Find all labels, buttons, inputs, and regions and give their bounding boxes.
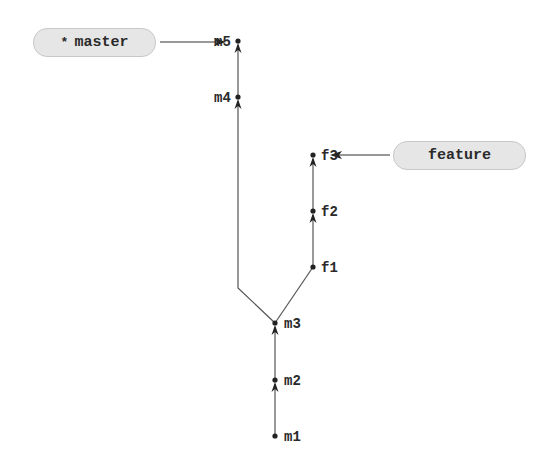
commit-label-m1: m1 (284, 429, 301, 445)
branch-label-master: master (74, 34, 128, 51)
commit-label-m3: m3 (284, 316, 301, 332)
edge-m2-m3 (272, 325, 279, 380)
commit-label-m5: m5 (214, 34, 231, 50)
commit-dot-m5 (235, 38, 240, 43)
commit-dot-m2 (272, 377, 277, 382)
edge-f1-f2 (310, 213, 317, 267)
commit-graph (0, 0, 549, 467)
commit-label-f3: f3 (321, 148, 338, 164)
branch-label-feature: feature (428, 147, 491, 164)
current-branch-star-icon: * (61, 35, 69, 50)
commit-dot-m1 (272, 433, 277, 438)
edge-m3-f1 (275, 267, 313, 323)
commit-label-f2: f2 (321, 204, 338, 220)
feature-pointer-arrow (330, 151, 390, 159)
edge-m4-m5 (235, 43, 242, 97)
branch-pill-feature: feature (393, 141, 526, 170)
edge-f2-f3 (310, 157, 317, 211)
commit-dot-f1 (310, 264, 315, 269)
commit-label-m2: m2 (284, 373, 301, 389)
commit-dot-f3 (310, 152, 315, 157)
commit-dot-m4 (235, 94, 240, 99)
branch-pill-master: * master (33, 28, 156, 57)
commit-label-f1: f1 (321, 260, 338, 276)
edge-m3-m4 (235, 99, 276, 323)
commit-label-m4: m4 (214, 90, 231, 106)
edge-m1-m2 (272, 382, 279, 436)
commit-dot-m3 (272, 320, 277, 325)
commit-dot-f2 (310, 208, 315, 213)
